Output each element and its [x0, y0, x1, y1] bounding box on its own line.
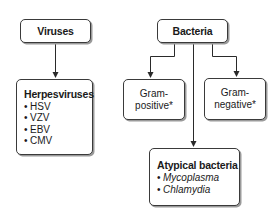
arrow-bacteria-to-gram-positive: [148, 43, 175, 78]
gram-negative-node: Gram- negative*: [204, 78, 266, 120]
herpesviruses-list: HSV VZV EBV CMV: [24, 101, 92, 147]
viruses-title: Viruses: [37, 25, 73, 37]
list-item-vzv: VZV: [24, 112, 92, 124]
viruses-node: Viruses: [20, 19, 91, 43]
gram-negative-line2: negative*: [214, 99, 256, 111]
bacteria-node: Bacteria: [157, 19, 228, 43]
atypical-bacteria-list: Mycoplasma Chlamydia: [157, 172, 239, 195]
arrow-viruses-to-herpesviruses: [53, 43, 59, 78]
arrow-bacteria-to-gram-negative: [213, 43, 240, 77]
herpesviruses-heading: Herpesviruses: [24, 88, 92, 101]
list-item-cmv: CMV: [24, 135, 92, 147]
gram-negative-line1: Gram-: [221, 87, 249, 99]
list-item-mycoplasma: Mycoplasma: [157, 172, 239, 184]
gram-positive-node: Gram- positive*: [123, 79, 185, 120]
gram-positive-line2: positive*: [135, 100, 173, 112]
gram-positive-line1: Gram-: [140, 88, 168, 100]
list-item-hsv: HSV: [24, 101, 92, 113]
bacteria-title: Bacteria: [173, 25, 213, 37]
arrow-bacteria-to-atypical: [191, 43, 197, 147]
list-item-ebv: EBV: [24, 124, 92, 136]
atypical-bacteria-node: Atypical bacteria Mycoplasma Chlamydia: [149, 148, 240, 206]
list-item-chlamydia: Chlamydia: [157, 184, 239, 196]
herpesviruses-node: Herpesviruses HSV VZV EBV CMV: [16, 79, 93, 155]
atypical-bacteria-heading: Atypical bacteria: [157, 159, 239, 172]
